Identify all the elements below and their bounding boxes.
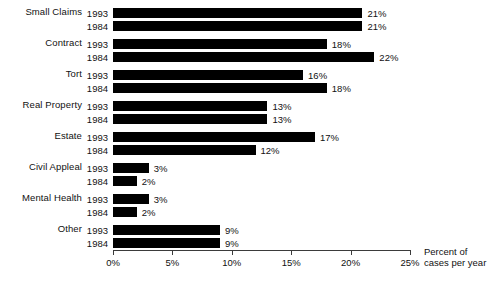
- bar: [113, 145, 256, 155]
- bar-value-label: 3%: [154, 163, 168, 174]
- bar: [113, 176, 137, 186]
- bar-group: Mental Health19933%19842%: [0, 192, 496, 218]
- x-axis-tick-label: 15%: [271, 257, 311, 268]
- year-label: 1993: [60, 39, 108, 50]
- bar-value-label: 13%: [272, 114, 291, 125]
- bar: [113, 114, 267, 124]
- x-axis-tick-label: 0%: [93, 257, 133, 268]
- year-label: 1993: [60, 194, 108, 205]
- bar-value-label: 12%: [261, 145, 280, 156]
- bar-value-label: 21%: [367, 21, 386, 32]
- year-label: 1984: [60, 52, 108, 63]
- bar: [113, 132, 315, 142]
- bar-group: Other19939%19849%: [0, 223, 496, 249]
- bar-row: 199316%: [0, 70, 496, 81]
- year-label: 1993: [60, 70, 108, 81]
- year-label: 1984: [60, 114, 108, 125]
- bar-row: 19933%: [0, 194, 496, 205]
- x-axis-tick: [172, 250, 173, 255]
- bar-value-label: 22%: [379, 52, 398, 63]
- bar-row: 198418%: [0, 83, 496, 94]
- bar-row: 198413%: [0, 114, 496, 125]
- bar: [113, 83, 327, 93]
- bar-row: 19849%: [0, 238, 496, 249]
- x-axis-tick: [351, 250, 352, 255]
- x-axis-tick-label: 20%: [331, 257, 371, 268]
- x-axis-tick: [113, 250, 114, 255]
- bar-row: 19842%: [0, 207, 496, 218]
- bar: [113, 163, 149, 173]
- bar-group: Real Property199313%198413%: [0, 99, 496, 125]
- year-label: 1993: [60, 163, 108, 174]
- year-label: 1993: [60, 101, 108, 112]
- x-axis-line: [113, 250, 410, 251]
- bar-row: 199318%: [0, 39, 496, 50]
- bar: [113, 207, 137, 217]
- bar: [113, 21, 362, 31]
- bar-group: Small Claims199321%198421%: [0, 6, 496, 32]
- bar: [113, 8, 362, 18]
- bar: [113, 194, 149, 204]
- year-label: 1984: [60, 238, 108, 249]
- x-axis-tick: [291, 250, 292, 255]
- x-axis-tick: [232, 250, 233, 255]
- x-axis-tick-label: 5%: [152, 257, 192, 268]
- x-axis-tick-label: 10%: [212, 257, 252, 268]
- bar-row: 198412%: [0, 145, 496, 156]
- bar: [113, 225, 220, 235]
- bar-row: 19939%: [0, 225, 496, 236]
- bar-row: 19842%: [0, 176, 496, 187]
- bar-group: Civil Appleal19933%19842%: [0, 161, 496, 187]
- year-label: 1993: [60, 225, 108, 236]
- bar-value-label: 2%: [142, 207, 156, 218]
- bar-value-label: 9%: [225, 225, 239, 236]
- bar-value-label: 18%: [332, 83, 351, 94]
- year-label: 1993: [60, 8, 108, 19]
- bar-value-label: 21%: [367, 8, 386, 19]
- bar: [113, 238, 220, 248]
- bar-value-label: 9%: [225, 238, 239, 249]
- bar-chart: Small Claims199321%198421%Contract199318…: [0, 0, 496, 281]
- year-label: 1984: [60, 21, 108, 32]
- bar-group: Estate199317%198412%: [0, 130, 496, 156]
- bar-row: 199313%: [0, 101, 496, 112]
- bar-value-label: 2%: [142, 176, 156, 187]
- bar-value-label: 13%: [272, 101, 291, 112]
- year-label: 1984: [60, 207, 108, 218]
- bar-value-label: 16%: [308, 70, 327, 81]
- bar-row: 198421%: [0, 21, 496, 32]
- bar-row: 19933%: [0, 163, 496, 174]
- bar-group: Tort199316%198418%: [0, 68, 496, 94]
- bar-row: 199321%: [0, 8, 496, 19]
- bar-group: Contract199318%198422%: [0, 37, 496, 63]
- bar: [113, 70, 303, 80]
- x-axis-tick-label: 25%: [390, 257, 430, 268]
- bar: [113, 39, 327, 49]
- x-axis-caption-line2: cases per year: [424, 258, 486, 269]
- bar-value-label: 3%: [154, 194, 168, 205]
- bar-row: 198422%: [0, 52, 496, 63]
- year-label: 1984: [60, 145, 108, 156]
- bar: [113, 101, 267, 111]
- year-label: 1993: [60, 132, 108, 143]
- year-label: 1984: [60, 83, 108, 94]
- bar: [113, 52, 374, 62]
- year-label: 1984: [60, 176, 108, 187]
- x-axis-tick: [410, 250, 411, 255]
- bar-value-label: 18%: [332, 39, 351, 50]
- bar-value-label: 17%: [320, 132, 339, 143]
- bar-row: 199317%: [0, 132, 496, 143]
